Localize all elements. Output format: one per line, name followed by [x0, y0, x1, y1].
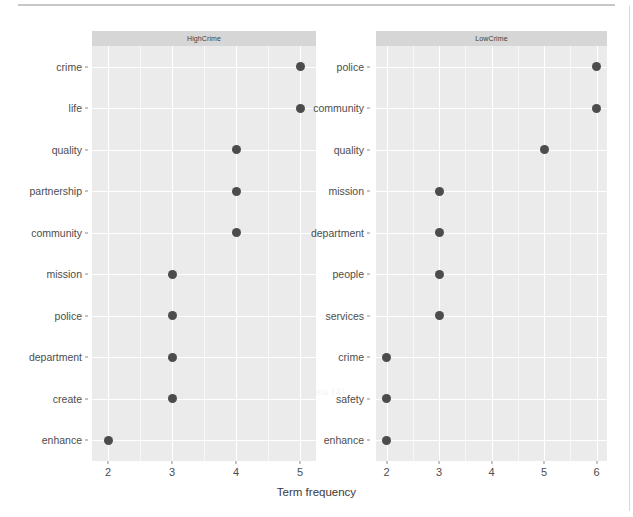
y-axis-tick-mark: [85, 108, 88, 109]
data-point: [592, 62, 601, 71]
facet-strip-highcrime: HighCrime: [92, 31, 316, 46]
x-axis-tick-mark: [386, 461, 387, 464]
x-axis-tick-mark: [236, 461, 237, 464]
y-axis-tick-label: partnership: [29, 185, 82, 197]
y-axis-tick-label: department: [311, 227, 364, 239]
data-point: [232, 145, 241, 154]
page-top-rule: [18, 4, 615, 6]
x-axis-tick-label: 4: [488, 466, 494, 478]
y-axis-tick-label: police: [337, 61, 364, 73]
data-point: [382, 353, 391, 362]
gridline-major-horizontal: [376, 440, 607, 441]
facet-strip-label: HighCrime: [187, 35, 221, 42]
gridline-major-horizontal: [92, 150, 316, 151]
x-axis-tick-label: 3: [169, 466, 175, 478]
x-axis-tick-mark: [596, 461, 597, 464]
y-axis-tick-label: mission: [328, 185, 364, 197]
y-axis-tick-mark: [85, 357, 88, 358]
x-axis-tick-label: 4: [233, 466, 239, 478]
x-axis-tick-label: 3: [436, 466, 442, 478]
facet-panel-lowcrime: LowCrime: [376, 31, 607, 461]
y-axis-tick-label: people: [332, 268, 364, 280]
x-axis-tick-label: 5: [297, 466, 303, 478]
x-axis-title: Term frequency: [0, 486, 633, 498]
chart-figure: the purpose a sense of is value of partn…: [0, 0, 633, 517]
x-axis-tick-mark: [108, 461, 109, 464]
x-axis-tick-mark: [439, 461, 440, 464]
y-axis-tick-mark: [85, 274, 88, 275]
y-axis-tick-mark: [367, 108, 370, 109]
data-point: [168, 353, 177, 362]
gridline-major-horizontal: [92, 233, 316, 234]
y-axis-tick-mark: [85, 398, 88, 399]
data-point: [168, 270, 177, 279]
gridline-major-horizontal: [92, 274, 316, 275]
x-axis-tick-mark: [544, 461, 545, 464]
y-axis-tick-mark: [367, 274, 370, 275]
data-point: [104, 436, 113, 445]
data-point: [382, 436, 391, 445]
y-axis-tick-label: community: [31, 227, 82, 239]
gridline-major-horizontal: [92, 67, 316, 68]
gridline-major-horizontal: [92, 357, 316, 358]
y-axis-tick-mark: [367, 66, 370, 67]
y-axis-tick-mark: [85, 149, 88, 150]
plot-area-highcrime: [92, 46, 316, 461]
y-axis-tick-label: safety: [336, 393, 364, 405]
y-axis-tick-mark: [367, 232, 370, 233]
data-point: [168, 394, 177, 403]
y-axis-tick-label: life: [69, 102, 82, 114]
data-point: [435, 270, 444, 279]
y-axis-tick-label: create: [53, 393, 82, 405]
gridline-major-horizontal: [92, 316, 316, 317]
gridline-major-horizontal: [376, 108, 607, 109]
data-point: [540, 145, 549, 154]
y-axis-lowcrime: policecommunityqualitymissiondepartmentp…: [286, 46, 372, 461]
data-point: [435, 187, 444, 196]
y-axis-tick-mark: [85, 191, 88, 192]
data-point: [435, 228, 444, 237]
gridline-major-horizontal: [376, 399, 607, 400]
y-axis-tick-label: crime: [338, 351, 364, 363]
gridline-major-horizontal: [92, 399, 316, 400]
facet-panel-highcrime: HighCrime: [92, 31, 316, 461]
y-axis-tick-mark: [367, 315, 370, 316]
gridline-major-horizontal: [376, 233, 607, 234]
gridline-major-horizontal: [376, 67, 607, 68]
y-axis-tick-label: enhance: [42, 434, 82, 446]
x-axis-tick-mark: [491, 461, 492, 464]
facet-strip-label: LowCrime: [475, 35, 507, 42]
x-axis-tick-mark: [172, 461, 173, 464]
gridline-major-horizontal: [92, 191, 316, 192]
x-axis-lowcrime: 23456: [376, 461, 607, 485]
y-axis-tick-mark: [367, 191, 370, 192]
page-right-rule: [629, 6, 630, 511]
y-axis-tick-mark: [367, 149, 370, 150]
gridline-major-horizontal: [376, 191, 607, 192]
x-axis-tick-label: 2: [105, 466, 111, 478]
y-axis-tick-label: services: [325, 310, 364, 322]
y-axis-tick-mark: [367, 440, 370, 441]
gridline-major-horizontal: [376, 357, 607, 358]
gridline-major-horizontal: [376, 316, 607, 317]
y-axis-tick-mark: [85, 440, 88, 441]
x-axis-highcrime: 2345: [92, 461, 316, 485]
gridline-major-horizontal: [376, 274, 607, 275]
data-point: [382, 394, 391, 403]
y-axis-tick-mark: [367, 357, 370, 358]
x-axis-tick-label: 5: [541, 466, 547, 478]
y-axis-tick-label: mission: [46, 268, 82, 280]
y-axis-tick-label: community: [313, 102, 364, 114]
x-axis-tick-label: 6: [593, 466, 599, 478]
gridline-major-horizontal: [92, 108, 316, 109]
y-axis-tick-mark: [85, 66, 88, 67]
y-axis-tick-label: quality: [334, 144, 364, 156]
facet-strip-lowcrime: LowCrime: [376, 31, 607, 46]
y-axis-tick-label: department: [29, 351, 82, 363]
y-axis-tick-mark: [85, 232, 88, 233]
y-axis-tick-label: enhance: [324, 434, 364, 446]
y-axis-tick-label: crime: [56, 61, 82, 73]
data-point: [435, 311, 444, 320]
data-point: [232, 187, 241, 196]
data-point: [592, 104, 601, 113]
